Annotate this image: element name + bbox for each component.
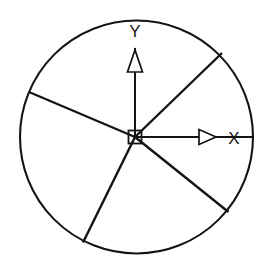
y-axis-arrowhead-icon xyxy=(128,50,143,72)
spoke-upper-right xyxy=(135,53,222,137)
sector-spokes xyxy=(29,53,229,243)
x-axis-group: X xyxy=(135,129,253,148)
x-axis-label: X xyxy=(228,129,239,148)
diagram-canvas: X Y xyxy=(0,0,259,272)
y-axis-label: Y xyxy=(129,22,140,41)
spoke-lower-right xyxy=(135,137,229,212)
x-axis-arrowhead-icon xyxy=(199,130,216,145)
y-axis-group: Y xyxy=(128,22,143,137)
spoke-lower-left xyxy=(83,137,135,243)
circle-sector-diagram: X Y xyxy=(0,0,259,272)
spoke-upper-left xyxy=(29,92,135,137)
